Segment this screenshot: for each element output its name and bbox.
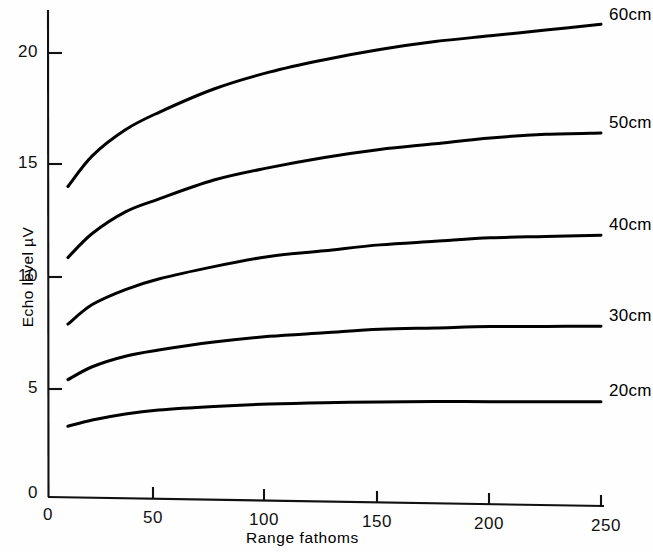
y-axis-title: Echo level µV — [19, 197, 37, 357]
y-axis-ticks — [48, 53, 62, 389]
x-tick-label-50: 50 — [123, 508, 183, 528]
x-axis-title: Range fathoms — [246, 529, 359, 547]
y-axis-line — [48, 10, 49, 497]
series-curve-60cm — [68, 24, 601, 186]
series-label-20cm: 20cm — [609, 381, 652, 401]
chart-axes — [48, 10, 604, 506]
y-tick-label-20: 20 — [0, 42, 38, 62]
series-curve-20cm — [68, 402, 601, 427]
series-label-40cm: 40cm — [609, 215, 652, 235]
series-label-50cm: 50cm — [609, 113, 652, 133]
series-label-30cm: 30cm — [609, 306, 652, 326]
chart-figure: 20 15 10 5 0 0 50 100 150 200 250 Echo l… — [0, 0, 653, 552]
y-tick-label-5: 5 — [0, 378, 38, 398]
chart-plot-area — [0, 0, 653, 552]
x-axis-line — [48, 497, 604, 506]
chart-series-group — [68, 24, 601, 426]
y-tick-label-0: 0 — [0, 483, 38, 503]
series-curve-50cm — [68, 133, 601, 258]
x-tick-label-250: 250 — [576, 516, 636, 536]
x-tick-label-0: 0 — [18, 505, 78, 525]
series-curve-40cm — [68, 235, 601, 324]
y-tick-label-15: 15 — [0, 153, 38, 173]
x-tick-label-200: 200 — [459, 514, 519, 534]
series-curve-30cm — [68, 326, 601, 379]
series-label-60cm: 60cm — [609, 5, 652, 25]
x-tick-label-100: 100 — [234, 510, 294, 530]
